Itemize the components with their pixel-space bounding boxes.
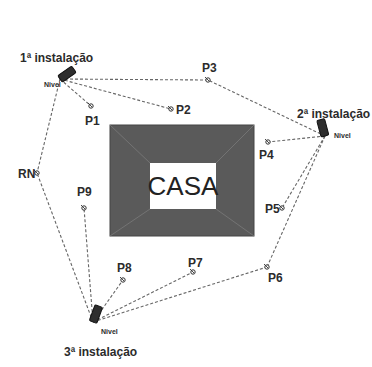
survey-point-rn: RN: [18, 167, 39, 181]
diagram-canvas: CASA P1P2P3P4P5P6P7P8P9RN 1ª instalaçãoN…: [0, 0, 372, 367]
installation-2: 2ª instalaçãoNivel: [297, 107, 370, 139]
sight-line-inst3-P9: [84, 208, 93, 322]
installation-label: 3ª instalação: [64, 345, 137, 359]
survey-point-p8: P8: [117, 261, 132, 282]
survey-point-p1: P1: [85, 103, 100, 128]
installation-label: 1ª instalação: [20, 51, 93, 65]
level-instrument-icon: [89, 305, 102, 324]
point-label: P4: [259, 148, 274, 162]
point-label: P2: [176, 103, 191, 117]
nivel-label: Nivel: [101, 328, 118, 335]
sight-line-inst3-P6: [93, 267, 267, 322]
survey-point-p5: P5: [265, 202, 284, 216]
survey-point-p2: P2: [168, 103, 191, 117]
sight-line-inst1-RN: [37, 79, 60, 173]
point-label: P8: [117, 261, 132, 275]
installation-3: 3ª instalaçãoNivel: [64, 305, 137, 359]
level-instrument-icon: [317, 119, 329, 137]
sight-line-inst1-P3: [60, 79, 208, 80]
survey-point-p7: P7: [188, 256, 203, 274]
survey-point-p3: P3: [202, 61, 217, 82]
point-label: P7: [188, 256, 203, 270]
survey-point-p9: P9: [77, 185, 92, 210]
level-instrument-icon: [58, 66, 77, 82]
survey-point-p6: P6: [264, 264, 283, 285]
survey-point-p4: P4: [259, 139, 274, 162]
point-label: P1: [85, 114, 100, 128]
installation-1: 1ª instalaçãoNivel: [20, 51, 93, 88]
point-label: P6: [268, 271, 283, 285]
point-label: P9: [77, 185, 92, 199]
nivel-label: Nivel: [44, 81, 61, 88]
house: CASA: [110, 125, 254, 236]
house-label: CASA: [148, 171, 219, 201]
sight-line-inst2-P4: [268, 136, 325, 142]
sight-line-inst2-P5: [282, 136, 325, 208]
nivel-label: Nivel: [334, 132, 351, 139]
point-label: P5: [265, 202, 280, 216]
point-label: RN: [18, 167, 35, 181]
installation-label: 2ª instalação: [297, 107, 370, 121]
survey-diagram: CASA P1P2P3P4P5P6P7P8P9RN 1ª instalaçãoN…: [0, 0, 372, 367]
point-label: P3: [202, 61, 217, 75]
sight-line-inst3-P7: [93, 272, 193, 322]
